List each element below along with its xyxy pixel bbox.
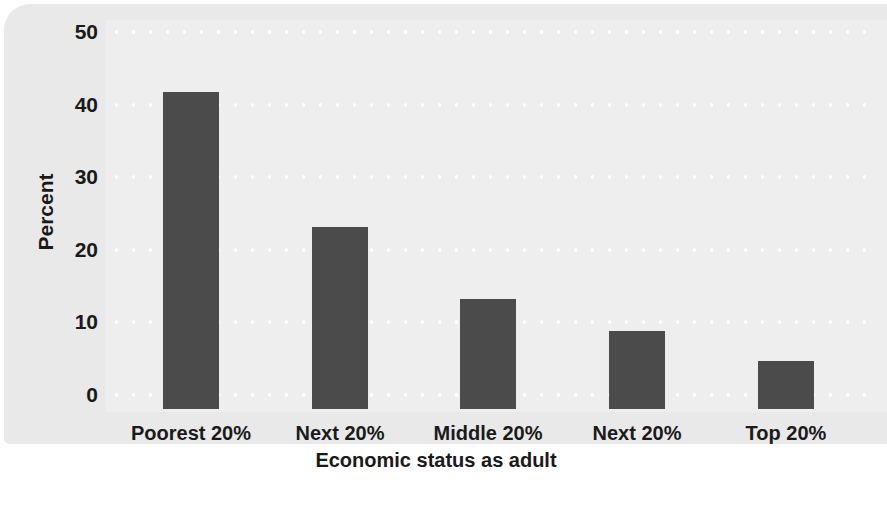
bar-middle-20[interactable]	[460, 299, 516, 409]
bar-top-20[interactable]	[758, 361, 814, 409]
y-tick-40: 40	[38, 93, 98, 117]
x-tick-next-20-lower: Next 20%	[296, 422, 385, 445]
chart-panel: 0 10 20 30 40 50 Percent Poorest 20% Nex…	[4, 4, 887, 444]
y-tick-0: 0	[38, 383, 98, 407]
bar-poorest-20[interactable]	[163, 92, 219, 409]
y-tick-10: 10	[38, 310, 98, 334]
y-axis-label: Percent	[34, 152, 58, 272]
x-axis-label: Economic status as adult	[0, 449, 872, 472]
bar-next-20-upper[interactable]	[609, 331, 665, 409]
bar-next-20-lower[interactable]	[312, 227, 368, 409]
bar-series	[105, 20, 887, 412]
y-tick-50: 50	[38, 20, 98, 44]
x-tick-middle-20: Middle 20%	[434, 422, 543, 445]
x-tick-top-20: Top 20%	[746, 422, 827, 445]
x-tick-next-20-upper: Next 20%	[593, 422, 682, 445]
x-tick-poorest-20: Poorest 20%	[131, 422, 251, 445]
chart-page: mobility has declined in recent decades.…	[0, 0, 887, 505]
